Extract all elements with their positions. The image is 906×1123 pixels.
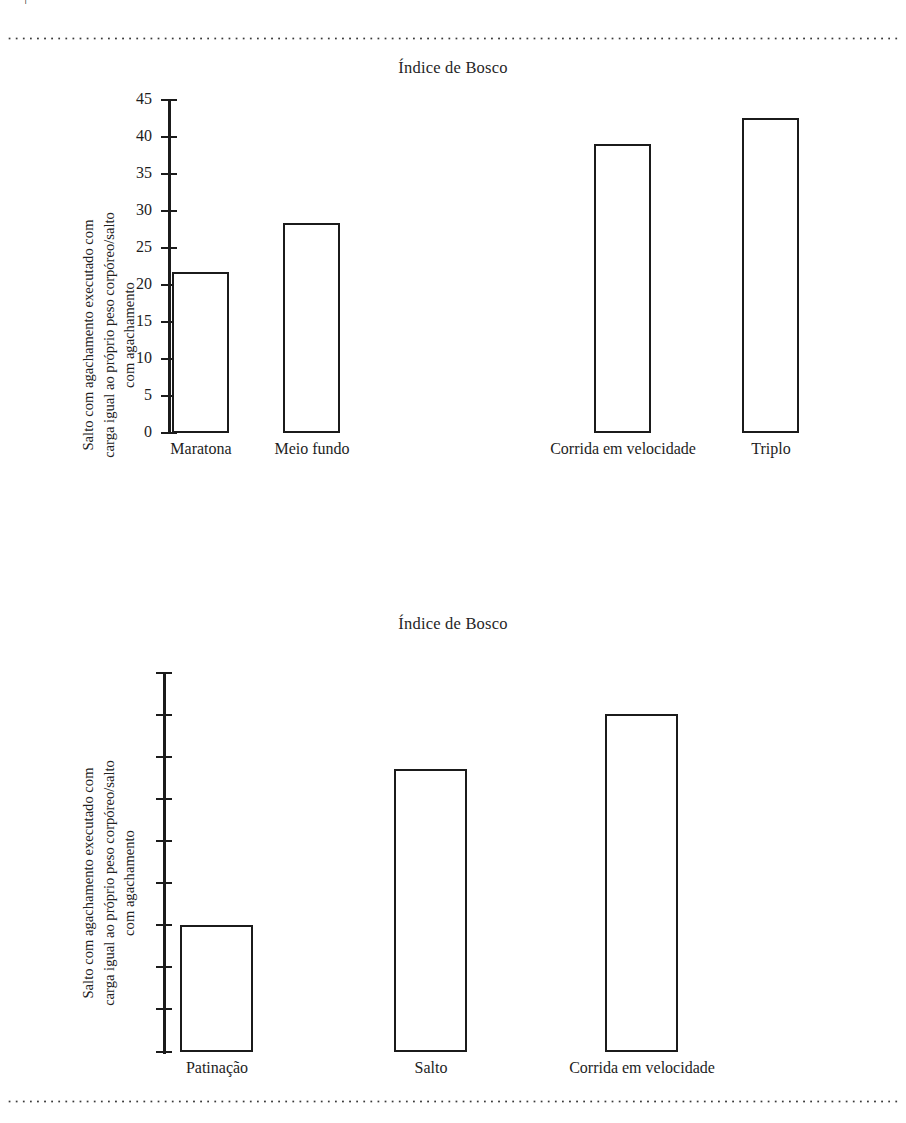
y-tick-30	[161, 210, 177, 212]
y-tick-label-45: 45	[112, 91, 152, 107]
y-tick-40	[161, 136, 177, 138]
category-label-maratona: Maratona	[140, 439, 262, 458]
y-tick-2	[156, 966, 172, 968]
bar-corrida-em-velocidade	[594, 144, 651, 434]
y-tick-label-0: 0	[112, 424, 152, 440]
category-label-corrida-em-velocidade: Corrida em velocidade	[527, 439, 719, 458]
bar-meio-fundo	[283, 223, 340, 433]
y-tick-3	[156, 924, 172, 926]
y-tick-6	[156, 798, 172, 800]
y-tick-4	[156, 882, 172, 884]
y-tick-label-10: 10	[112, 350, 152, 366]
y-tick-label-5: 5	[112, 387, 152, 403]
y-tick-1	[156, 1008, 172, 1010]
y-tick-5	[156, 840, 172, 842]
y-tick-label-20: 20	[112, 276, 152, 292]
y-tick-7	[156, 756, 172, 758]
plot-area: 45 40 35 30 25 20 15 10 5 0 Maratona Mei…	[0, 52, 906, 482]
y-tick-0	[156, 1051, 172, 1053]
y-tick-9	[156, 672, 172, 674]
y-tick-45	[161, 99, 177, 101]
y-tick-label-30: 30	[112, 202, 152, 218]
category-label-meio-fundo: Meio fundo	[251, 439, 373, 458]
category-label-corrida-em-velocidade: Corrida em velocidade	[546, 1058, 738, 1077]
category-label-patinacao: Patinação	[156, 1058, 278, 1077]
page-top-fragment: ↑	[22, 0, 30, 4]
category-label-triplo: Triplo	[725, 439, 817, 458]
document-page: ↑ Índice de Bosco Salto com agachamento …	[0, 0, 906, 1123]
y-axis-spine	[168, 99, 171, 432]
y-tick-label-35: 35	[112, 165, 152, 181]
bar-patinacao	[180, 925, 253, 1052]
category-label-salto: Salto	[370, 1058, 492, 1077]
dotted-rule-bottom	[6, 1100, 900, 1103]
y-axis-spine	[163, 672, 166, 1054]
bar-triplo	[742, 118, 799, 433]
dotted-rule-top	[6, 37, 900, 40]
y-tick-35	[161, 173, 177, 175]
y-tick-label-40: 40	[112, 128, 152, 144]
y-tick-label-25: 25	[112, 239, 152, 255]
bar-salto	[394, 769, 467, 1052]
y-tick-8	[156, 714, 172, 716]
plot-area: Patinação Salto Corrida em velocidade	[0, 608, 906, 1048]
y-tick-25	[161, 247, 177, 249]
y-tick-label-15: 15	[112, 313, 152, 329]
chart-bosco-index-other-sports: Índice de Bosco Salto com agachamento ex…	[0, 608, 906, 1078]
bar-maratona	[172, 272, 229, 433]
chart-bosco-index-athletics: Índice de Bosco Salto com agachamento ex…	[0, 52, 906, 512]
bar-corrida-em-velocidade	[605, 714, 678, 1052]
